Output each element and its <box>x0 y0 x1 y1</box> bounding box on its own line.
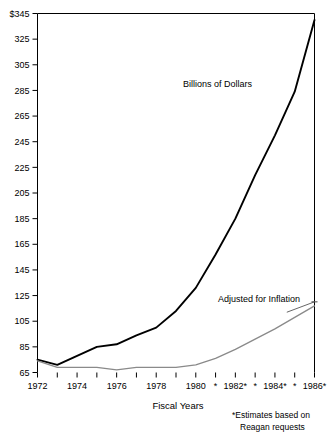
x-axis-tick-label: 1978 <box>146 381 166 391</box>
chart-container: 6585105125145165185205225245265285305325… <box>0 0 336 440</box>
y-axis-tick-label: 325 <box>14 34 29 44</box>
fiscal-years-line-chart: 6585105125145165185205225245265285305325… <box>0 0 336 440</box>
x-axis-tick-label: 1984* <box>263 381 287 391</box>
y-axis-label-group: 6585105125145165185205225245265285305325… <box>9 9 29 378</box>
annotation-adjusted-for-inflation: Adjusted for Inflation <box>218 294 300 304</box>
x-axis-tick-label: * <box>214 381 218 391</box>
y-axis-tick-label: 245 <box>14 137 29 147</box>
y-axis-tick-label: 145 <box>14 265 29 275</box>
y-axis-tick-label: 125 <box>14 291 29 301</box>
x-axis-tick-label: 1980 <box>186 381 206 391</box>
y-axis-tick-label: 205 <box>14 188 29 198</box>
series-line-adjusted-for-inflation <box>38 306 315 370</box>
x-axis-tick-label: 1972 <box>27 381 47 391</box>
y-axis-tick-label: 285 <box>14 86 29 96</box>
y-axis-tick-label: 225 <box>14 163 29 173</box>
x-axis-tick-label: * <box>253 381 257 391</box>
y-axis-tick-group <box>33 14 38 373</box>
y-axis-tick-label: $345 <box>9 9 29 19</box>
footnote-line-1: *Estimates based on <box>232 410 310 420</box>
x-axis-tick-label: 1982* <box>224 381 248 391</box>
y-axis-tick-label: 265 <box>14 111 29 121</box>
y-axis-tick-label: 185 <box>14 214 29 224</box>
x-axis-tick-label: 1986* <box>303 381 327 391</box>
x-axis-tick-label: * <box>293 381 297 391</box>
plot-frame <box>38 14 315 373</box>
x-axis-title: Fiscal Years <box>152 400 203 411</box>
annotation-billions-of-dollars: Billions of Dollars <box>183 79 253 89</box>
footnote-line-2: Reagan requests <box>240 422 305 432</box>
y-axis-tick-label: 85 <box>19 342 29 352</box>
x-axis-tick-group <box>38 373 315 378</box>
y-axis-tick-label: 165 <box>14 239 29 249</box>
series-line-billions-of-dollars <box>38 20 315 365</box>
x-axis-tick-label: 1974 <box>67 381 87 391</box>
y-axis-tick-label: 305 <box>14 60 29 70</box>
y-axis-tick-label: 65 <box>19 368 29 378</box>
y-axis-tick-label: 105 <box>14 316 29 326</box>
x-axis-label-group: 19721974197619781980*1982**1984**1986* <box>27 381 326 391</box>
x-axis-tick-label: 1976 <box>107 381 127 391</box>
